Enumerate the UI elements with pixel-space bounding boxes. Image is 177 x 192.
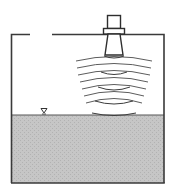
emitted-waves bbox=[76, 57, 152, 104]
sensor-flange bbox=[104, 29, 125, 35]
level-measurement-diagram bbox=[0, 0, 177, 192]
sensor-horn-antenna bbox=[105, 34, 123, 55]
liquid bbox=[12, 115, 164, 183]
level-marker-icon bbox=[41, 109, 47, 115]
sensor-housing bbox=[108, 16, 121, 29]
